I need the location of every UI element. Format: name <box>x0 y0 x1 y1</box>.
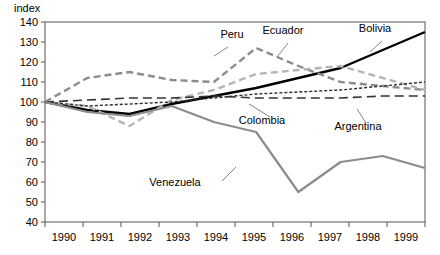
svg-text:60: 60 <box>26 176 38 188</box>
svg-text:1999: 1999 <box>394 231 418 243</box>
svg-text:130: 130 <box>20 36 38 48</box>
annotation-colombia: Colombia <box>239 114 286 126</box>
svg-text:110: 110 <box>20 76 38 88</box>
svg-text:120: 120 <box>20 56 38 68</box>
svg-text:90: 90 <box>26 116 38 128</box>
series-line-colombia <box>45 82 425 106</box>
x-axis-ticks: 1990199119921993199419951996199719981999 <box>45 222 425 243</box>
svg-text:70: 70 <box>26 156 38 168</box>
series-annotations: PeruEcuadorBoliviaColombiaArgentinaVenez… <box>149 22 392 188</box>
y-axis-ticks: 405060708090100110120130140 <box>20 16 45 228</box>
svg-text:80: 80 <box>26 136 38 148</box>
svg-text:50: 50 <box>26 196 38 208</box>
chart-container: index 405060708090100110120130140 199019… <box>0 0 440 255</box>
svg-text:1995: 1995 <box>242 231 266 243</box>
svg-text:40: 40 <box>26 216 38 228</box>
svg-text:1990: 1990 <box>52 231 76 243</box>
series-line-venezuela <box>45 102 425 192</box>
annotation-bolivia: Bolivia <box>359 22 392 34</box>
svg-text:1998: 1998 <box>356 231 380 243</box>
svg-text:1997: 1997 <box>318 231 342 243</box>
svg-text:140: 140 <box>20 16 38 28</box>
svg-text:1993: 1993 <box>166 231 190 243</box>
annotation-venezuela: Venezuela <box>149 176 201 188</box>
series-line-bolivia <box>45 32 425 114</box>
annotation-argentina: Argentina <box>334 120 382 132</box>
line-chart: 405060708090100110120130140 199019911992… <box>0 0 440 255</box>
series-line-argentina <box>45 96 425 102</box>
annotation-peru: Peru <box>220 28 243 40</box>
svg-text:1994: 1994 <box>204 231 228 243</box>
svg-text:1996: 1996 <box>280 231 304 243</box>
svg-text:1991: 1991 <box>90 231 114 243</box>
annotation-ecuador: Ecuador <box>263 24 304 36</box>
svg-text:100: 100 <box>20 96 38 108</box>
svg-text:1992: 1992 <box>128 231 152 243</box>
